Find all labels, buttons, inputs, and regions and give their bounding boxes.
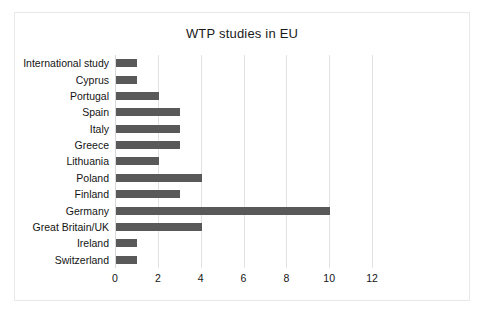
bar-row: Portugal [115, 88, 372, 104]
gridline-12 [372, 55, 373, 268]
category-label: Greece [75, 140, 109, 151]
category-label: Portugal [70, 91, 109, 102]
bar [116, 190, 180, 198]
x-tick-label: 6 [241, 273, 247, 284]
bar-row: Cyprus [115, 71, 372, 87]
chart-title: WTP studies in EU [15, 26, 469, 41]
bar [116, 157, 159, 165]
bar-row: Ireland [115, 235, 372, 251]
bar-row: Spain [115, 104, 372, 120]
category-label: Germany [66, 205, 109, 216]
category-label: Switzerland [55, 255, 109, 266]
bar-row: Switzerland [115, 252, 372, 268]
category-label: International study [23, 58, 109, 69]
bar [116, 92, 159, 100]
bar-row: Germany [115, 202, 372, 218]
bar [116, 239, 137, 247]
bar [116, 256, 137, 264]
chart-frame: WTP studies in EU International studyCyp… [14, 12, 470, 301]
category-label: Finland [75, 189, 109, 200]
bar-row: Italy [115, 121, 372, 137]
bar-row: Great Britain/UK [115, 219, 372, 235]
bar-row: Greece [115, 137, 372, 153]
bar [116, 59, 137, 67]
bar [116, 141, 180, 149]
x-tick-label: 12 [366, 273, 378, 284]
category-label: Italy [90, 123, 109, 134]
category-label: Ireland [77, 238, 109, 249]
bar-row: Finland [115, 186, 372, 202]
bar [116, 174, 202, 182]
category-label: Poland [76, 173, 109, 184]
category-label: Cyprus [76, 74, 109, 85]
bar [116, 76, 137, 84]
category-label: Spain [82, 107, 109, 118]
x-tick-label: 10 [323, 273, 335, 284]
bar-row: Poland [115, 170, 372, 186]
bar [116, 207, 330, 215]
x-tick-label: 0 [112, 273, 118, 284]
x-tick-label: 2 [155, 273, 161, 284]
bar [116, 125, 180, 133]
x-tick-label: 4 [198, 273, 204, 284]
category-label: Lithuania [66, 156, 109, 167]
bar-row: International study [115, 55, 372, 71]
bar [116, 223, 202, 231]
bar-row: Lithuania [115, 153, 372, 169]
x-tick-label: 8 [283, 273, 289, 284]
category-label: Great Britain/UK [33, 222, 109, 233]
bar [116, 108, 180, 116]
plot-area: International studyCyprusPortugalSpainIt… [115, 55, 372, 268]
